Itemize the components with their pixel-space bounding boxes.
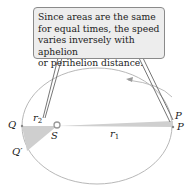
label-q-prime-letter: Q [12, 146, 20, 157]
point-p [172, 126, 174, 128]
motion-arc [128, 80, 172, 97]
callout-line: varies inversely with aphelion [38, 34, 160, 57]
label-s: S [51, 130, 58, 141]
label-r2: r2 [33, 112, 42, 125]
label-r1: r1 [110, 128, 119, 141]
sun-icon [54, 122, 60, 128]
label-q-prime: Q′ [12, 146, 22, 157]
callout-line: for equal times, the speed [38, 23, 160, 35]
r1-subscript: 1 [115, 133, 119, 141]
kepler-second-law-diagram: Since areas are the same for equal times… [0, 0, 196, 189]
direction-arrow-icon [126, 77, 133, 82]
label-p-upper: P [175, 110, 182, 121]
point-q [21, 125, 23, 127]
callout-box: Since areas are the same for equal times… [33, 7, 165, 59]
prime-mark: ′ [20, 146, 22, 157]
aphelion-sector [57, 121, 173, 127]
label-q: Q [8, 119, 16, 130]
r2-subscript: 2 [38, 117, 42, 125]
label-p-lower: P [177, 121, 184, 132]
callout-line: Since areas are the same [38, 11, 160, 23]
callout-line: or perihelion distance. [38, 57, 160, 69]
